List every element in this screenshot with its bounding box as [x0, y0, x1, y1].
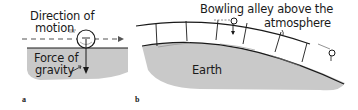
- alley-support: [243, 23, 247, 44]
- panel-label-b: b: [135, 96, 139, 104]
- earth-label: Earth: [192, 65, 222, 77]
- alley-support: [156, 24, 157, 46]
- gravity-arrow-head: [231, 31, 235, 35]
- motion-arrow-head: [118, 36, 124, 42]
- earth-body: [142, 42, 345, 90]
- ball-icon: [231, 18, 237, 24]
- force-of-gravity-label-line2: gravity: [35, 65, 74, 77]
- ball-icon: [329, 50, 335, 56]
- bowling-alley-label-line1: Bowling alley above the: [200, 4, 333, 16]
- alley-support: [275, 32, 281, 52]
- alley-support: [302, 43, 307, 62]
- alley-support: [186, 21, 187, 41]
- panel-label-a: a: [22, 96, 26, 104]
- direction-of-motion-label-line2: motion: [35, 23, 74, 35]
- bowling-alley-label-line2: atmosphere: [264, 18, 331, 30]
